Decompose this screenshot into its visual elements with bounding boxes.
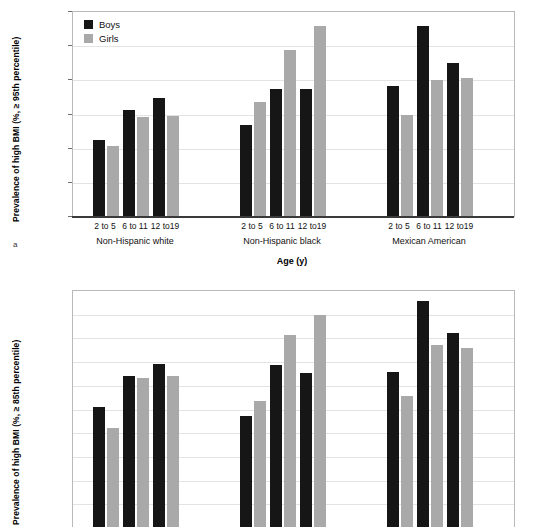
bar-girls <box>254 401 266 527</box>
bar-boys <box>417 26 429 217</box>
y-axis-ticks-a: 051015202530 <box>0 0 68 270</box>
legend-label-girls: Girls <box>99 34 119 43</box>
bar-boys <box>387 372 399 527</box>
bar-girls <box>401 115 413 217</box>
x-tick-label: 6 to 11 <box>416 221 441 231</box>
bar-boys <box>153 364 165 527</box>
legend-a: Boys Girls <box>84 18 120 46</box>
x-group-label: Mexican American <box>392 236 466 246</box>
x-tick-label: 2 to 5 <box>388 221 409 231</box>
bar-boys <box>270 89 282 217</box>
x-tick-label: 12 to19 <box>445 221 473 231</box>
gridline <box>73 315 514 316</box>
bar-girls <box>314 315 326 527</box>
bar-boys <box>123 376 135 527</box>
gridline <box>73 46 514 47</box>
bar-boys <box>387 86 399 217</box>
x-axis-title-a: Age (y) <box>277 256 308 266</box>
bar-girls <box>167 376 179 527</box>
legend-swatch-girls-icon <box>84 34 93 43</box>
bar-girls <box>284 50 296 217</box>
chart-panel-b: Prevalence of high BMI (%, ≥ 85th percen… <box>0 277 543 527</box>
bar-boys <box>123 110 135 217</box>
bar-girls <box>461 348 473 527</box>
y-axis-ticks-b: 5101520253035404550 <box>0 277 68 527</box>
bar-girls <box>401 396 413 527</box>
bar-girls <box>137 378 149 527</box>
bar-girls <box>431 345 443 527</box>
chart-panel-a: Prevalence of high BMI (%, ≥ 95th percen… <box>0 0 543 270</box>
bar-boys <box>93 140 105 217</box>
legend-item-girls: Girls <box>84 32 120 44</box>
bar-girls <box>284 335 296 527</box>
bar-girls <box>431 80 443 217</box>
x-tick-label: 2 to 5 <box>94 221 115 231</box>
legend-item-boys: Boys <box>84 18 120 30</box>
bar-boys <box>417 301 429 527</box>
x-axis-line-a <box>72 216 514 218</box>
bar-girls <box>254 102 266 217</box>
legend-swatch-boys-icon <box>84 20 93 29</box>
bar-girls <box>167 116 179 217</box>
bar-boys <box>153 98 165 217</box>
x-tick-label: 12 to19 <box>298 221 326 231</box>
bar-boys <box>447 333 459 527</box>
x-tick-label: 2 to 5 <box>241 221 262 231</box>
x-tick-label: 6 to 11 <box>269 221 294 231</box>
bar-boys <box>300 373 312 527</box>
x-tick-label: 6 to 11 <box>122 221 147 231</box>
bar-boys <box>270 365 282 527</box>
x-tick-label: 12 to19 <box>151 221 179 231</box>
bar-girls <box>314 26 326 217</box>
x-group-label: Non-Hispanic black <box>243 236 321 246</box>
plot-area-a <box>72 11 515 217</box>
bar-girls <box>461 78 473 217</box>
bar-boys <box>93 407 105 527</box>
x-group-label: Non-Hispanic white <box>96 236 174 246</box>
legend-label-boys: Boys <box>99 20 120 29</box>
bar-boys <box>240 125 252 217</box>
bar-girls <box>137 117 149 217</box>
bar-boys <box>240 416 252 527</box>
panel-letter-a: a <box>13 240 17 249</box>
bar-girls <box>107 428 119 527</box>
figure-root: Prevalence of high BMI (%, ≥ 95th percen… <box>0 0 543 527</box>
plot-area-b <box>72 290 515 527</box>
bar-girls <box>107 146 119 217</box>
bar-boys <box>447 63 459 217</box>
bar-boys <box>300 89 312 217</box>
